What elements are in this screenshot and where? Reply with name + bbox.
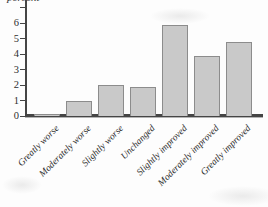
y-axis-line bbox=[25, 0, 27, 116]
y-tick-label-2: 2 bbox=[5, 80, 19, 90]
bar-greatly-improved bbox=[226, 42, 252, 116]
bar-slightly-worse bbox=[98, 85, 124, 116]
y-tick-mark-1 bbox=[20, 100, 25, 101]
y-tick-label-1: 1 bbox=[5, 96, 19, 106]
bar-slightly-improved bbox=[162, 25, 188, 116]
bar-moderately-worse bbox=[66, 101, 92, 117]
y-axis-title-label: percent bbox=[7, 0, 40, 3]
y-tick-mark-5 bbox=[20, 38, 25, 39]
y-tick-mark-2 bbox=[20, 85, 25, 86]
y-tick-mark-7 bbox=[20, 7, 25, 8]
y-tick-label-5: 5 bbox=[5, 34, 19, 44]
scan-smudge bbox=[2, 176, 42, 194]
bar-moderately-improved bbox=[194, 56, 220, 116]
bar-chart-figure: percent 0123456 Greatly worseModerately … bbox=[0, 0, 268, 207]
bar-unchanged bbox=[130, 87, 156, 116]
scan-smudge bbox=[150, 8, 210, 24]
y-tick-label-3: 3 bbox=[5, 65, 19, 75]
y-tick-label-6: 6 bbox=[5, 18, 19, 28]
y-tick-mark-6 bbox=[20, 23, 25, 24]
y-tick-label-4: 4 bbox=[5, 49, 19, 59]
y-tick-label-0: 0 bbox=[5, 111, 19, 121]
y-tick-mark-3 bbox=[20, 69, 25, 70]
y-tick-mark-0 bbox=[20, 116, 25, 117]
bar-greatly-worse bbox=[34, 114, 60, 116]
y-tick-mark-4 bbox=[20, 54, 25, 55]
scan-smudge bbox=[208, 186, 268, 206]
